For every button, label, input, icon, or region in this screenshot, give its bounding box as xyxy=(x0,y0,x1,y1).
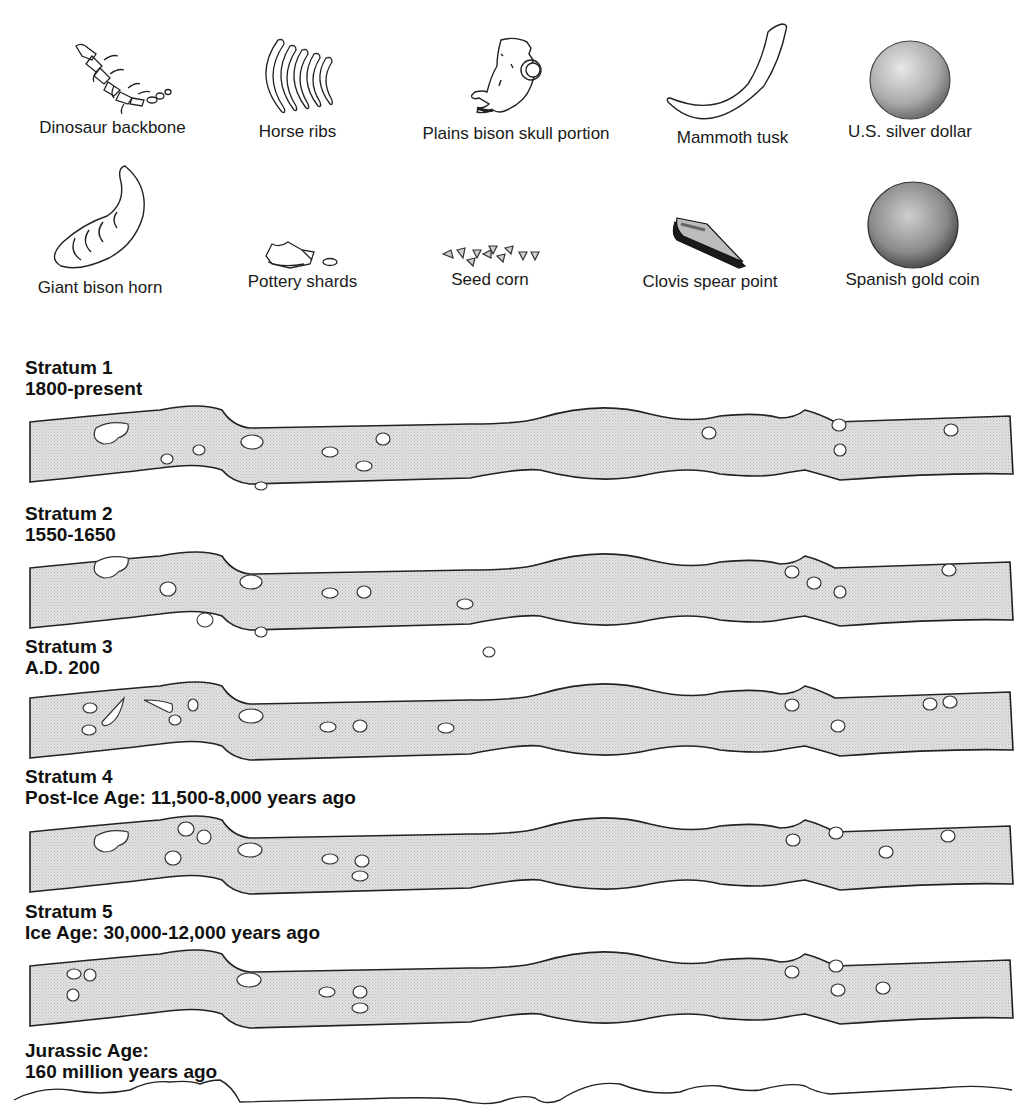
stratum-3-band xyxy=(30,682,1013,760)
strata-diagram xyxy=(0,0,1026,1119)
stratum-5-band xyxy=(30,950,1013,1028)
stratum-1-band xyxy=(30,406,1013,490)
stratum-4-band xyxy=(30,816,1013,894)
stray-artifact xyxy=(483,647,495,657)
jurassic-boundary-line xyxy=(14,1080,1012,1104)
stratum-2-band xyxy=(30,552,1013,637)
